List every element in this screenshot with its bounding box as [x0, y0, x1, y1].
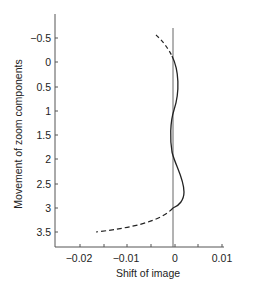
y-tick-label: −0.5 — [30, 32, 51, 44]
y-tick-labels: −0.5 0 0.5 1 1.5 2 2.5 3 3.5 — [30, 32, 51, 238]
x-tick-labels: −0.02 −0.01 0 0.01 — [66, 252, 233, 264]
y-tick-label: 3.5 — [36, 226, 51, 238]
x-tick-label: −0.01 — [113, 252, 140, 264]
y-tick-label: 2 — [45, 153, 51, 165]
y-tick-label: 0.5 — [36, 81, 51, 93]
y-tick-label: 1.5 — [36, 129, 51, 141]
chart: −0.5 0 0.5 1 1.5 2 2.5 3 3.5 −0.02 −0.01… — [0, 0, 255, 290]
y-axis-label: Movement of zoom components — [12, 59, 24, 208]
y-tick-label: 1 — [45, 105, 51, 117]
y-tick-label: 2.5 — [36, 178, 51, 190]
dashed-lower-curve — [96, 208, 173, 232]
x-axis-label: Shift of image — [116, 267, 180, 279]
x-tick-label: 0.01 — [212, 252, 233, 264]
x-tick-label: 0 — [172, 252, 178, 264]
dashed-upper-curve — [156, 35, 172, 56]
x-tick-label: −0.02 — [66, 252, 93, 264]
y-tick-label: 0 — [45, 56, 51, 68]
y-tick-label: 3 — [45, 202, 51, 214]
